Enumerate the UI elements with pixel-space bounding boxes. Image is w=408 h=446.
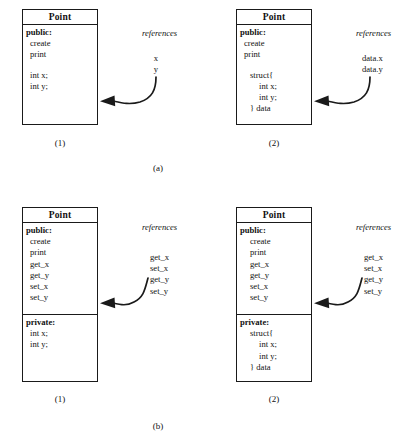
- compartment-private-b1: private: int x; int y;: [23, 314, 97, 381]
- member-row: private:: [237, 317, 311, 328]
- reference-arrow-b1: [96, 277, 154, 311]
- compartment-public-b2: public: create print get_x get_y set_x s…: [237, 223, 311, 314]
- member-row: public:: [23, 225, 97, 236]
- reference-list-a2: data.x data.y: [362, 53, 404, 75]
- member-row: int y;: [237, 92, 311, 103]
- reference-item: get_x: [150, 252, 190, 263]
- reference-item: y: [143, 64, 169, 75]
- member-row-spacer: [237, 61, 311, 70]
- member-list-a1-0: public: create print int x; int y;: [23, 27, 97, 92]
- class-box-b2: Point public: create print get_x get_y s…: [236, 207, 312, 382]
- references-label-a1: references: [142, 28, 177, 38]
- compartment-public-a2: public: create print struct{ int x; int …: [237, 25, 311, 124]
- member-row: get_y: [237, 270, 311, 281]
- reference-item: set_x: [364, 263, 404, 274]
- references-label-a2: references: [356, 28, 391, 38]
- reference-item: x: [143, 53, 169, 64]
- member-row: int x;: [23, 70, 97, 81]
- member-row: public:: [237, 27, 311, 38]
- class-box-a1: Point public: create print int x; int y;: [22, 9, 98, 125]
- panel-label-b1: (1): [44, 394, 76, 404]
- member-row: int x;: [237, 339, 311, 350]
- member-row: int y;: [23, 339, 97, 350]
- class-title-b1: Point: [23, 208, 97, 223]
- member-row: public:: [23, 27, 97, 38]
- member-row: print: [23, 49, 97, 60]
- member-row: int y;: [237, 351, 311, 362]
- class-title-a2: Point: [237, 10, 311, 25]
- reference-item: get_y: [364, 274, 404, 285]
- reference-arrow-a1: [96, 76, 158, 108]
- reference-item: data.x: [362, 53, 404, 64]
- reference-item: data.y: [362, 64, 404, 75]
- reference-item: set_y: [364, 286, 404, 297]
- member-row: print: [237, 247, 311, 258]
- reference-item: get_x: [364, 252, 404, 263]
- member-row: struct{: [237, 328, 311, 339]
- compartment-private-b2: private: struct{ int x; int y; } data: [237, 314, 311, 381]
- compartment-public-b1: public: create print get_x get_y set_x s…: [23, 223, 97, 314]
- references-label-b2: references: [356, 222, 391, 232]
- reference-list-b2: get_x set_x get_y set_y: [364, 252, 404, 297]
- class-box-b1: Point public: create print get_x get_y s…: [22, 207, 98, 382]
- class-title-b2: Point: [237, 208, 311, 223]
- member-list-a2-0: public: create print struct{ int x; int …: [237, 27, 311, 114]
- member-row: } data: [237, 362, 311, 373]
- reference-list-b1: get_x set_x get_y set_y: [150, 252, 190, 297]
- group-label-a: (a): [142, 163, 174, 173]
- member-list-b2-0: public: create print get_x get_y set_x s…: [237, 225, 311, 303]
- member-row: } data: [237, 103, 311, 114]
- class-title-a1: Point: [23, 10, 97, 25]
- member-list-b1-0: public: create print get_x get_y set_x s…: [23, 225, 97, 303]
- member-row: set_x: [23, 281, 97, 292]
- member-row: public:: [237, 225, 311, 236]
- reference-list-a1: x y: [143, 53, 169, 75]
- member-row: set_y: [23, 292, 97, 303]
- member-row: get_x: [237, 259, 311, 270]
- member-row: get_x: [23, 259, 97, 270]
- references-label-b1: references: [142, 222, 177, 232]
- reference-arrow-a2: [310, 76, 372, 108]
- member-row: create: [23, 38, 97, 49]
- reference-item: set_y: [150, 286, 190, 297]
- reference-arrow-b2: [310, 277, 368, 311]
- member-row: print: [237, 49, 311, 60]
- member-list-b2-1: private: struct{ int x; int y; } data: [237, 317, 311, 373]
- figure-root: Point public: create print int x; int y;…: [0, 0, 408, 446]
- member-row: int x;: [237, 81, 311, 92]
- member-list-b1-1: private: int x; int y;: [23, 317, 97, 351]
- member-row: create: [237, 236, 311, 247]
- reference-item: set_x: [150, 263, 190, 274]
- member-row: set_y: [237, 292, 311, 303]
- member-row: create: [23, 236, 97, 247]
- member-row: set_x: [237, 281, 311, 292]
- member-row-spacer: [23, 61, 97, 70]
- member-row: get_y: [23, 270, 97, 281]
- panel-label-a2: (2): [258, 138, 290, 148]
- panel-label-a1: (1): [44, 138, 76, 148]
- member-row: private:: [23, 317, 97, 328]
- group-label-b: (b): [142, 421, 174, 431]
- panel-label-b2: (2): [258, 394, 290, 404]
- member-row: struct{: [237, 70, 311, 81]
- member-row: int x;: [23, 328, 97, 339]
- member-row: create: [237, 38, 311, 49]
- member-row: int y;: [23, 81, 97, 92]
- class-box-a2: Point public: create print struct{ int x…: [236, 9, 312, 125]
- reference-item: get_y: [150, 274, 190, 285]
- member-row: print: [23, 247, 97, 258]
- compartment-public-a1: public: create print int x; int y;: [23, 25, 97, 124]
